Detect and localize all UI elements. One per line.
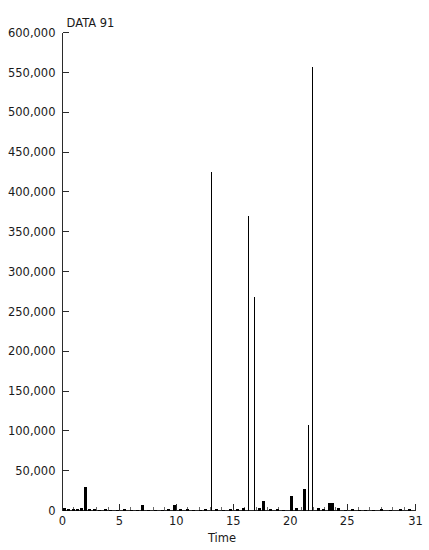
- y-tick-label: 500,000: [8, 105, 56, 119]
- y-tick-label: 0: [48, 504, 55, 518]
- x-axis-label: Time: [207, 531, 236, 545]
- y-tick-label: 50,000: [15, 464, 55, 478]
- chart-title: DATA 91: [67, 16, 115, 30]
- axis-lines: [63, 33, 416, 511]
- y-tick-label: 550,000: [8, 66, 56, 80]
- y-tick-label: 200,000: [8, 344, 56, 358]
- y-tick-label: 100,000: [8, 424, 56, 438]
- y-tick-label: 150,000: [8, 384, 56, 398]
- x-axis-ticks: 051015202531: [59, 504, 423, 528]
- x-tick-label: 10: [169, 514, 184, 528]
- y-tick-label: 400,000: [8, 185, 56, 199]
- y-tick-label: 600,000: [8, 26, 56, 40]
- bar-series: [65, 67, 410, 511]
- x-tick-label: 15: [226, 514, 241, 528]
- x-tick-label: 25: [340, 514, 355, 528]
- x-tick-label: 31: [408, 514, 423, 528]
- y-tick-label: 250,000: [8, 305, 56, 319]
- data-91-spike-chart: 050,000100,000150,000200,000250,000300,0…: [0, 0, 429, 550]
- y-tick-label: 300,000: [8, 265, 56, 279]
- y-axis-ticks: 050,000100,000150,000200,000250,000300,0…: [8, 26, 69, 518]
- x-tick-label: 0: [59, 514, 66, 528]
- chart-container: 050,000100,000150,000200,000250,000300,0…: [0, 0, 429, 550]
- y-tick-label: 450,000: [8, 145, 56, 159]
- x-tick-label: 20: [283, 514, 298, 528]
- x-tick-label: 5: [116, 514, 123, 528]
- y-tick-label: 350,000: [8, 225, 56, 239]
